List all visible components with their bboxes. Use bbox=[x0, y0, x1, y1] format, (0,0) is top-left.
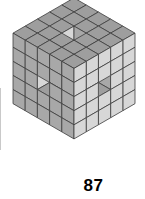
figure-page: 87 bbox=[0, 0, 145, 199]
isometric-cube-svg bbox=[0, 0, 145, 176]
isometric-cube-figure bbox=[0, 0, 145, 176]
figure-caption-number: 87 bbox=[0, 176, 145, 196]
